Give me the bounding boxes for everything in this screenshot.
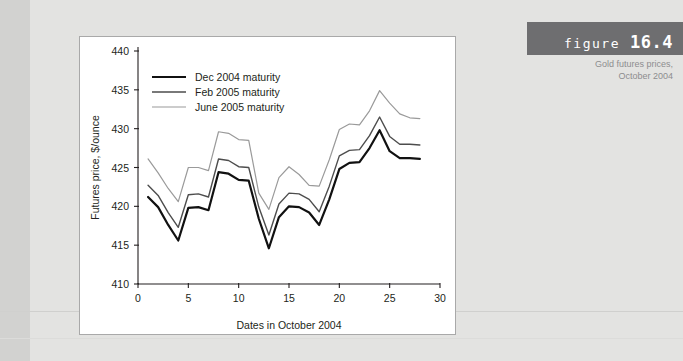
x-axis-tick-label: 5	[185, 292, 191, 304]
x-axis-tick-label: 20	[333, 292, 345, 304]
figure-label-word: figure	[564, 36, 620, 51]
y-axis-title: Futures price, $/ounce	[89, 115, 101, 220]
chart-panel: 410415420425430435440051015202530Dates i…	[79, 36, 456, 335]
page-background: figure 16.4 Gold futures prices, October…	[0, 0, 683, 361]
figure-caption: Gold futures prices, October 2004	[493, 58, 673, 82]
series-line	[148, 130, 420, 248]
y-axis-tick-label: 425	[111, 162, 129, 174]
figure-label-number: 16.4	[630, 32, 673, 52]
x-axis-tick-label: 30	[434, 292, 446, 304]
y-axis-tick-label: 420	[111, 200, 129, 212]
x-axis-tick-label: 25	[384, 292, 396, 304]
legend-label: Dec 2004 maturity	[195, 71, 281, 83]
y-axis-tick-label: 435	[111, 84, 129, 96]
figure-caption-line-1: Gold futures prices,	[493, 58, 673, 70]
series-line	[148, 117, 420, 235]
page-edge-strip	[0, 0, 30, 361]
figure-caption-line-2: October 2004	[493, 70, 673, 82]
legend-label: Feb 2005 maturity	[195, 86, 280, 98]
line-chart: 410415420425430435440051015202530Dates i…	[80, 37, 455, 334]
legend-label: June 2005 maturity	[195, 101, 285, 113]
figure-label-box: figure 16.4	[527, 22, 683, 55]
x-axis-tick-label: 15	[283, 292, 295, 304]
y-axis-tick-label: 410	[111, 278, 129, 290]
x-axis-tick-label: 0	[135, 292, 141, 304]
page-divider-rule-secondary	[0, 338, 683, 339]
y-axis-tick-label: 430	[111, 123, 129, 135]
figure-label: figure 16.4	[564, 32, 673, 52]
chart-legend: Dec 2004 maturityFeb 2005 maturityJune 2…	[152, 71, 285, 113]
y-axis-tick-label: 440	[111, 45, 129, 57]
x-axis-title: Dates in October 2004	[236, 319, 341, 331]
y-axis-tick-label: 415	[111, 239, 129, 251]
x-axis-tick-label: 10	[233, 292, 245, 304]
